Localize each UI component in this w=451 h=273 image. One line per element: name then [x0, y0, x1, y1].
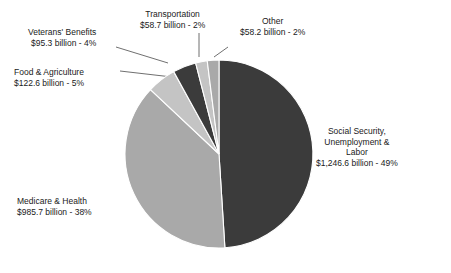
- pie-label-medicare-health: Medicare & Health $985.7 billion - 38%: [17, 196, 92, 217]
- pie-slices: [125, 60, 313, 248]
- pie-label-transportation-name: Transportation: [140, 9, 205, 20]
- pie-label-food-agriculture: Food & Agriculture $122.6 billion - 5%: [14, 67, 84, 88]
- pie-label-transportation: Transportation $58.7 billion - 2%: [140, 9, 205, 30]
- pie-label-food-agriculture-name: Food & Agriculture: [14, 67, 84, 78]
- pie-label-social-security-value: $1,246.6 billion - 49%: [316, 158, 398, 169]
- pie-label-social-security-name-1: Social Security,: [316, 126, 398, 137]
- pie-label-transportation-value: $58.7 billion - 2%: [140, 20, 205, 31]
- pie-label-other: Other $58.2 billion - 2%: [240, 16, 305, 37]
- pie-label-social-security: Social Security, Unemployment & Labor $1…: [316, 126, 398, 168]
- pie-label-veterans-benefits-value: $95.3 billion - 4%: [28, 38, 96, 49]
- pie-label-veterans-benefits-name: Veterans' Benefits: [28, 27, 96, 38]
- leader-line-other: [214, 47, 228, 57]
- pie-label-social-security-name-3: Labor: [316, 147, 398, 158]
- pie-label-veterans-benefits: Veterans' Benefits $95.3 billion - 4%: [28, 27, 96, 48]
- pie-slice-social-security-unemployment-labor[interactable]: [219, 60, 313, 248]
- pie-label-social-security-name-2: Unemployment &: [316, 137, 398, 148]
- leader-line-food: [120, 71, 172, 77]
- pie-chart: Veterans' Benefits $95.3 billion - 4% Fo…: [0, 0, 451, 273]
- pie-label-medicare-health-name: Medicare & Health: [17, 196, 92, 207]
- pie-label-food-agriculture-value: $122.6 billion - 5%: [14, 78, 84, 89]
- pie-label-other-value: $58.2 billion - 2%: [240, 27, 305, 38]
- leader-line-veterans: [116, 47, 168, 63]
- pie-label-medicare-health-value: $985.7 billion - 38%: [17, 207, 92, 218]
- pie-label-other-name: Other: [240, 16, 305, 27]
